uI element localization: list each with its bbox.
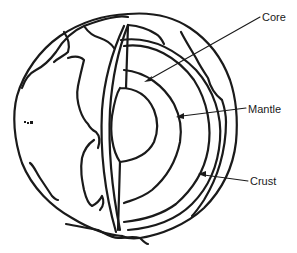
continent-antarctica xyxy=(66,224,148,244)
wedge-left-edge-outer xyxy=(102,26,124,232)
continent-africa-west xyxy=(81,140,103,210)
earth-cross-section-diagram: Core Mantle Crust xyxy=(0,0,297,253)
earth-globe-drawing xyxy=(0,0,297,253)
continent-south-america xyxy=(68,57,99,148)
wedge-center-axis xyxy=(118,25,128,230)
continent-southwest xyxy=(30,163,58,200)
core-label: Core xyxy=(262,11,286,23)
mantle-label: Mantle xyxy=(248,103,281,115)
core-boundary xyxy=(111,88,157,162)
crust-label: Crust xyxy=(250,175,276,187)
islands xyxy=(24,121,33,124)
